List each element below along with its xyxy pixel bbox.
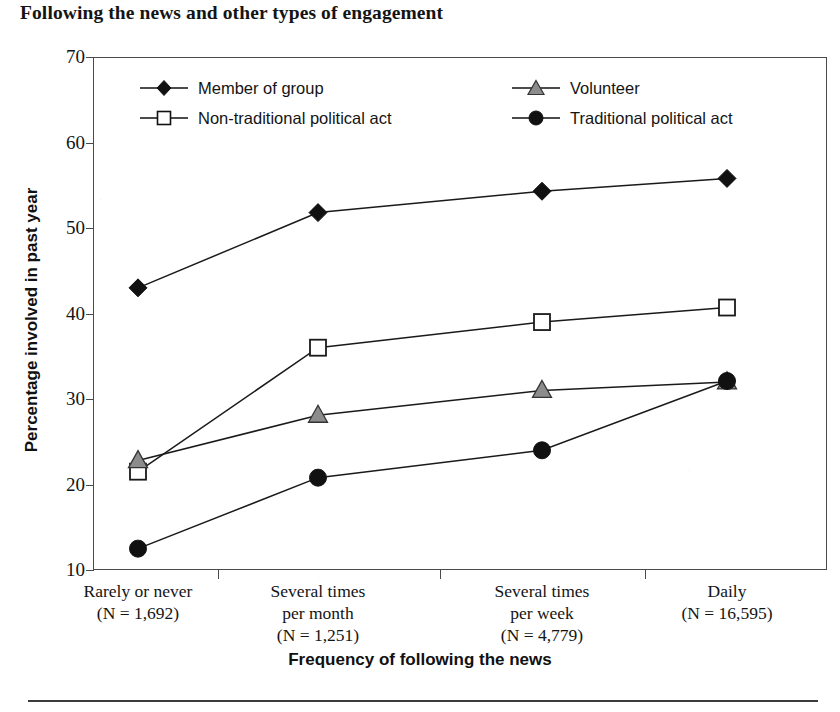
x-category-line2: per month: [218, 602, 418, 624]
x-category-line1: Several times: [442, 580, 642, 602]
y-tickmark-60: [86, 143, 94, 144]
x-category-several-times-per-week: Several times per week (N = 4,779): [442, 580, 642, 646]
legend: Member of group Non-traditional politica…: [138, 78, 758, 138]
legend-label-volunteer: Volunteer: [570, 79, 640, 98]
y-tickmark-40: [86, 314, 94, 315]
x-category-n: (N = 1,251): [218, 624, 418, 646]
y-tick-40: 40: [66, 303, 85, 325]
legend-item-member-of-group: Member of group: [138, 78, 324, 98]
legend-item-non-traditional-political-act: Non-traditional political act: [138, 108, 392, 128]
legend-label-traditional-political-act: Traditional political act: [570, 109, 733, 128]
x-category-n: (N = 16,595): [627, 602, 827, 624]
y-tickmark-20: [86, 485, 94, 486]
y-tickmark-10: [86, 570, 94, 571]
filled-diamond-icon: [138, 78, 190, 98]
y-tickmark-70: [86, 57, 94, 58]
x-axis-title: Frequency of following the news: [0, 650, 840, 670]
gray-triangle-icon: [510, 78, 562, 98]
open-square-icon: [138, 108, 190, 128]
y-axis-title: Percentage involved in past year: [22, 110, 42, 530]
y-tick-10: 10: [66, 559, 85, 581]
legend-label-member-of-group: Member of group: [198, 79, 324, 98]
y-tick-60: 60: [66, 132, 85, 154]
x-tickmark-1: [218, 570, 219, 579]
y-tick-20: 20: [66, 474, 85, 496]
legend-label-non-traditional-political-act: Non-traditional political act: [198, 109, 392, 128]
y-tick-70: 70: [66, 46, 85, 68]
y-tick-50: 50: [66, 217, 85, 239]
x-tickmark-2: [440, 570, 441, 579]
legend-item-volunteer: Volunteer: [510, 78, 640, 98]
legend-item-traditional-political-act: Traditional political act: [510, 108, 733, 128]
x-category-several-times-per-month: Several times per month (N = 1,251): [218, 580, 418, 646]
bottom-rule: [28, 700, 818, 702]
y-tick-30: 30: [66, 388, 85, 410]
x-category-line2: per week: [442, 602, 642, 624]
x-category-n: (N = 1,692): [38, 602, 238, 624]
page-title: Following the news and other types of en…: [20, 2, 820, 24]
x-category-line1: Rarely or never: [38, 580, 238, 602]
figure: Following the news and other types of en…: [0, 0, 840, 712]
x-category-line1: Several times: [218, 580, 418, 602]
y-tickmark-50: [86, 228, 94, 229]
x-category-line1: Daily: [627, 580, 827, 602]
x-tickmark-3: [645, 570, 646, 579]
filled-circle-icon: [510, 108, 562, 128]
x-category-rarely-or-never: Rarely or never (N = 1,692): [38, 580, 238, 624]
y-tickmark-30: [86, 399, 94, 400]
x-category-daily: Daily (N = 16,595): [627, 580, 827, 624]
x-category-n: (N = 4,779): [442, 624, 642, 646]
